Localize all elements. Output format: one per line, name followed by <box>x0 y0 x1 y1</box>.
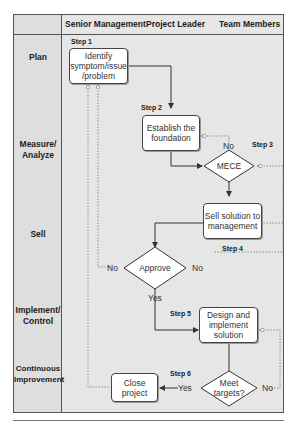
node-identify-symptom: Identify symptom/issue /problem <box>69 48 128 84</box>
node-mece: MECE <box>206 161 252 171</box>
node-establish-foundation: Establish the foundation <box>142 115 200 151</box>
step-5-label: Step 5 <box>170 310 191 317</box>
edge-label-approve-no-left: No <box>107 263 118 273</box>
node-meet-targets: Meet targets? <box>204 378 254 398</box>
edge-label-meet-no: No <box>262 383 273 393</box>
step-4-label: Step 4 <box>222 245 243 252</box>
step-3-label: Step 3 <box>252 141 273 148</box>
edge-label-meet-yes: Yes <box>178 383 192 393</box>
node-design-implement: Design and implement solution <box>199 307 258 343</box>
step-6-label: Step 6 <box>170 370 191 377</box>
edge-label-mece-no: No <box>223 141 234 151</box>
step-1-label: Step 1 <box>71 38 92 45</box>
node-close-project: Close project <box>111 373 158 402</box>
edge-label-approve-no-right: No <box>192 263 203 273</box>
step-2-label: Step 2 <box>141 104 162 111</box>
node-approve: Approve <box>126 263 184 273</box>
edge-label-approve-yes: Yes <box>148 293 162 303</box>
node-sell-solution: Sell solution to management <box>203 203 262 239</box>
